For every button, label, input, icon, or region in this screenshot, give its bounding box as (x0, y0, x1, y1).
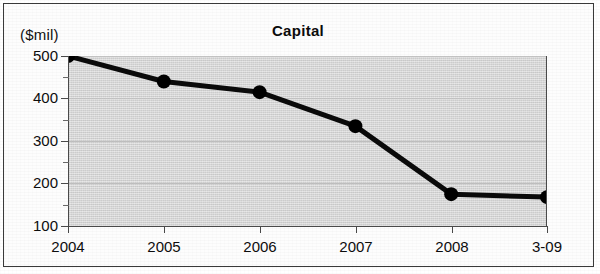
x-tick-3-09 (547, 226, 548, 233)
x-tick-2007 (356, 226, 357, 233)
capital-line-series (68, 56, 547, 226)
y-tick-250 (63, 162, 69, 163)
y-axis-label-400: 400 (14, 89, 58, 106)
data-point-2007 (348, 119, 362, 133)
y-tick-500 (61, 56, 69, 57)
x-axis-label-3-09: 3-09 (512, 238, 582, 255)
data-point-3-09 (540, 190, 547, 204)
data-point-2004 (68, 56, 75, 63)
y-tick-150 (63, 205, 69, 206)
x-axis-label-2006: 2006 (225, 238, 295, 255)
x-axis-label-2007: 2007 (321, 238, 391, 255)
series-markers (68, 56, 547, 204)
x-tick-2005 (164, 226, 165, 233)
data-point-2005 (157, 75, 171, 89)
x-tick-2004 (68, 226, 69, 233)
x-axis-label-2005: 2005 (129, 238, 199, 255)
y-axis-label-300: 300 (14, 132, 58, 149)
x-axis-line (68, 226, 548, 227)
x-axis-label-2004: 2004 (33, 238, 103, 255)
chart-title: Capital (218, 22, 378, 39)
series-polyline (68, 56, 547, 197)
y-tick-450 (63, 77, 69, 78)
x-tick-2008 (452, 226, 453, 233)
data-point-2008 (444, 187, 458, 201)
data-point-2006 (253, 85, 267, 99)
y-axis-label-100: 100 (14, 217, 58, 234)
plot-area (68, 56, 547, 226)
y-tick-400 (61, 98, 69, 99)
y-tick-200 (61, 183, 69, 184)
y-axis-labels: 500 400 300 200 100 (10, 0, 58, 274)
y-tick-350 (63, 120, 69, 121)
y-tick-300 (61, 141, 69, 142)
y-axis-label-500: 500 (14, 47, 58, 64)
y-axis-label-200: 200 (14, 174, 58, 191)
x-tick-2006 (260, 226, 261, 233)
x-axis-label-2008: 2008 (417, 238, 487, 255)
